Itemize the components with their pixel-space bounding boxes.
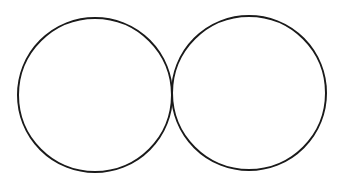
left-circle bbox=[18, 18, 172, 172]
diagram-canvas bbox=[0, 0, 339, 185]
right-circle bbox=[172, 16, 326, 170]
